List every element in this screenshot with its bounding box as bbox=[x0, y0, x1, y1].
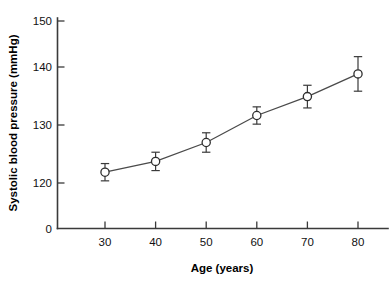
y-axis-title: Systolic blood pressure (mmHg) bbox=[7, 34, 19, 211]
chart-background bbox=[0, 0, 392, 281]
x-tick-label-40: 40 bbox=[149, 236, 162, 248]
y-tick-label-150: 150 bbox=[33, 15, 52, 27]
x-tick-label-60: 60 bbox=[250, 236, 263, 248]
y-tick-label-120: 120 bbox=[33, 177, 52, 189]
x-tick-label-80: 80 bbox=[352, 236, 365, 248]
x-tick-label-30: 30 bbox=[99, 236, 112, 248]
x-axis-title: Age (years) bbox=[191, 262, 254, 274]
y-tick-label-130: 130 bbox=[33, 119, 52, 131]
data-point-marker-50 bbox=[202, 138, 210, 146]
x-tick-label-70: 70 bbox=[301, 236, 314, 248]
data-point-marker-30 bbox=[101, 168, 109, 176]
y-tick-label-0: 0 bbox=[46, 223, 52, 235]
data-point-marker-40 bbox=[152, 157, 160, 165]
systolic-blood-pressure-line-chart: 150 140 130 120 0 30 40 50 60 70 80 bbox=[0, 0, 392, 281]
y-tick-label-140: 140 bbox=[33, 61, 52, 73]
data-point-marker-80 bbox=[354, 70, 362, 78]
data-point-marker-60 bbox=[253, 111, 261, 119]
x-tick-label-50: 50 bbox=[200, 236, 213, 248]
chart-container: 150 140 130 120 0 30 40 50 60 70 80 bbox=[0, 0, 392, 281]
data-point-marker-70 bbox=[303, 93, 311, 101]
